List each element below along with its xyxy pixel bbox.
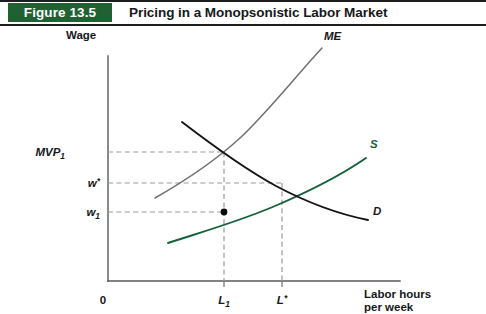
curve-label-d: D (373, 205, 381, 217)
x-tick-label-l1: L1 (218, 294, 230, 309)
monopsony-outcome-dot (221, 209, 228, 216)
curve-label-me: ME (324, 30, 342, 42)
x-origin-label: 0 (100, 294, 106, 306)
figure-header: Figure 13.5 Pricing in a Monopsonistic L… (0, 0, 486, 26)
y-tick-label-mvp1: MVP1 (35, 146, 65, 161)
figure-container: Figure 13.5 Pricing in a Monopsonistic L… (0, 0, 486, 314)
figure-svg: Wage MVP1 w* w1 0 L1 L* Labor hours per … (0, 26, 486, 314)
x-axis-label-line2: per week (364, 301, 414, 313)
figure-title: Pricing in a Monopsonistic Labor Market (129, 4, 387, 22)
header-top-rule (0, 0, 486, 2)
plot-area: Wage MVP1 w* w1 0 L1 L* Labor hours per … (0, 26, 486, 314)
x-tick-label-lstar: L* (277, 293, 288, 306)
x-axis-label-line1: Labor hours (364, 288, 431, 300)
figure-number-badge: Figure 13.5 (8, 3, 112, 22)
y-tick-label-w1: w1 (86, 206, 100, 221)
curve-marginal-expenditure (155, 48, 322, 198)
curve-label-s: S (370, 138, 378, 150)
y-tick-label-wstar: w* (88, 176, 101, 189)
y-axis-label: Wage (66, 29, 96, 41)
